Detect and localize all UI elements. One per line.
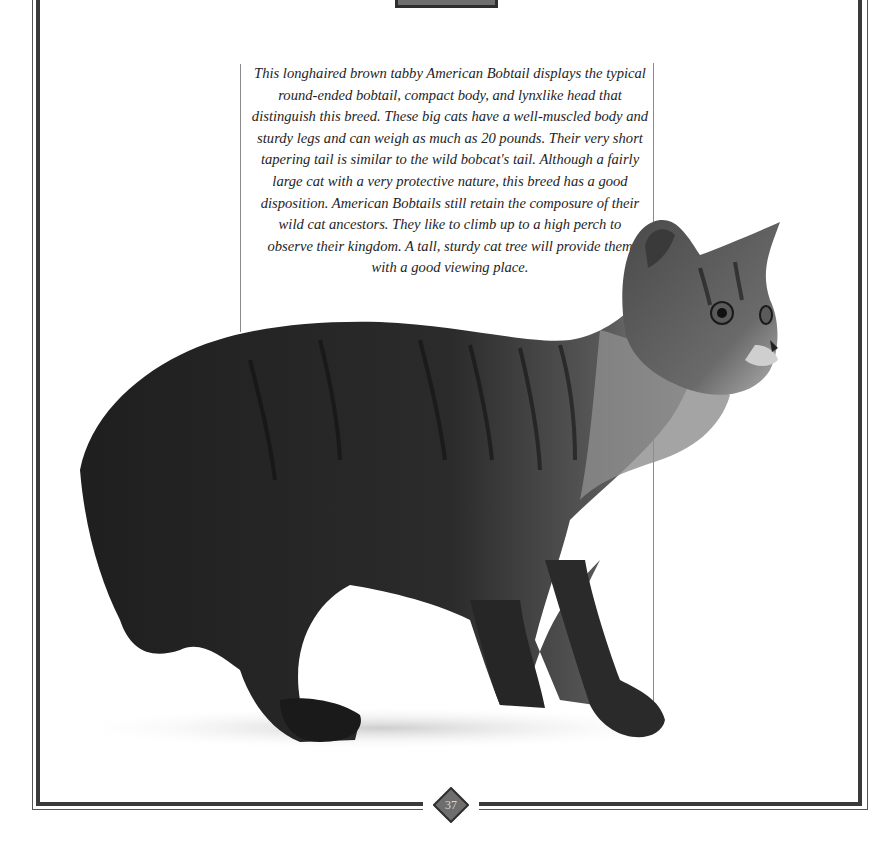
caption-line: distinguish this breed. These big cats h… <box>246 106 654 128</box>
caption-line: This longhaired brown tabby American Bob… <box>246 63 654 85</box>
caption-line: large cat with a very protective nature,… <box>246 171 654 193</box>
cat-photo <box>60 200 790 760</box>
caption-line: round-ended bobtail, compact body, and l… <box>246 85 654 107</box>
caption-line: tapering tail is similar to the wild bob… <box>246 149 654 171</box>
page-number: 37 <box>433 787 469 823</box>
top-header-tab <box>395 0 498 8</box>
caption-line: sturdy legs and can weigh as much as 20 … <box>246 128 654 150</box>
